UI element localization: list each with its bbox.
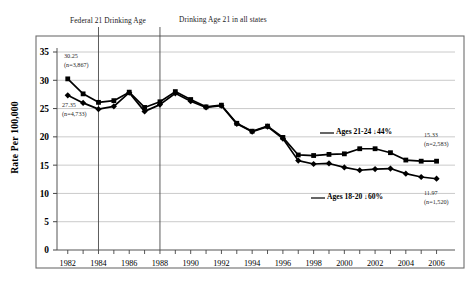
start-value-label-ages-21-24: 30.25 (n=3,867) bbox=[64, 52, 89, 70]
svg-text:2006: 2006 bbox=[428, 259, 444, 268]
x-axis-ticks: 1982198419861988199019921994199619982000… bbox=[57, 250, 455, 268]
svg-text:10: 10 bbox=[40, 189, 50, 199]
annotation-label-federal-21-drinking-age: Federal 21 Drinking Age bbox=[70, 16, 146, 25]
series-note-ages-18-20: Ages 18-20 ↓60% bbox=[327, 192, 383, 201]
start-value-ages-18-20: 27.35 bbox=[62, 101, 87, 110]
start-n-ages-18-20: (n=4,733) bbox=[62, 110, 87, 119]
annotation-vertical-lines bbox=[98, 27, 159, 250]
start-value-ages-21-24: 30.25 bbox=[64, 52, 89, 61]
svg-text:5: 5 bbox=[44, 217, 49, 227]
svg-text:25: 25 bbox=[40, 104, 50, 114]
svg-text:1992: 1992 bbox=[213, 259, 229, 268]
svg-text:2002: 2002 bbox=[367, 259, 383, 268]
svg-text:1990: 1990 bbox=[183, 259, 199, 268]
series-note-ages-21-24: Ages 21-24 ↓44% bbox=[336, 127, 392, 136]
plot-frame bbox=[36, 36, 464, 268]
end-value-label-ages-18-20: 11.97 (n=1,520) bbox=[424, 189, 449, 207]
start-n-ages-21-24: (n=3,867) bbox=[64, 61, 89, 70]
annotation-label-drinking-age-21-all-states: Drinking Age 21 in all states bbox=[179, 15, 267, 24]
svg-text:35: 35 bbox=[40, 47, 50, 57]
end-n-ages-21-24: (n=2,583) bbox=[424, 140, 449, 149]
y-axis-title: Rate Per 100,000 bbox=[9, 88, 20, 188]
end-value-ages-21-24: 15.33 bbox=[424, 131, 449, 140]
svg-text:2000: 2000 bbox=[336, 259, 352, 268]
svg-text:0: 0 bbox=[44, 245, 49, 255]
end-n-ages-18-20: (n=1,520) bbox=[424, 198, 449, 207]
svg-text:1986: 1986 bbox=[121, 259, 137, 268]
end-value-label-ages-21-24: 15.33 (n=2,583) bbox=[424, 131, 449, 149]
end-value-ages-18-20: 11.97 bbox=[424, 189, 449, 198]
svg-text:15: 15 bbox=[40, 161, 50, 171]
svg-text:1994: 1994 bbox=[244, 259, 260, 268]
start-value-label-ages-18-20: 27.35 (n=4,733) bbox=[62, 101, 87, 119]
chart-figure: Federal 21 Drinking Age Drinking Age 21 … bbox=[0, 0, 473, 293]
grid-lines bbox=[57, 52, 455, 222]
svg-text:1988: 1988 bbox=[152, 259, 168, 268]
svg-text:1982: 1982 bbox=[60, 259, 76, 268]
svg-text:30: 30 bbox=[40, 76, 50, 86]
svg-text:1984: 1984 bbox=[90, 259, 106, 268]
svg-text:1998: 1998 bbox=[305, 259, 321, 268]
chart-plot-area: 05101520253035 1982198419861988199019921… bbox=[0, 0, 473, 293]
y-axis-ticks: 05101520253035 bbox=[40, 47, 57, 255]
svg-text:2004: 2004 bbox=[398, 259, 414, 268]
svg-text:20: 20 bbox=[40, 132, 50, 142]
svg-text:1996: 1996 bbox=[275, 259, 291, 268]
